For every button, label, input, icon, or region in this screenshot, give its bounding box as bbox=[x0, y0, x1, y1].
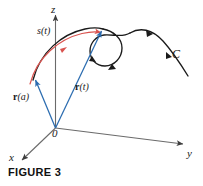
y-axis-label: y bbox=[187, 148, 192, 159]
vector-r-t-label-arg: (t) bbox=[79, 81, 88, 92]
origin-label: 0 bbox=[52, 128, 58, 139]
arc-length-indicator bbox=[30, 32, 101, 84]
y-axis bbox=[56, 128, 184, 144]
vector-r-a bbox=[36, 80, 56, 128]
x-axis-label: x bbox=[9, 152, 14, 163]
figure-caption: FIGURE 3 bbox=[8, 166, 61, 178]
arc-length-mid-arrow bbox=[60, 47, 67, 53]
vector-r-a-label: r(a) bbox=[13, 92, 29, 102]
figure-container: z y x 0 s(t) C r(a) r(t) FIGURE 3 bbox=[0, 0, 203, 186]
figure-graphic bbox=[0, 0, 203, 186]
curve-loop bbox=[90, 29, 130, 66]
vector-r-t bbox=[56, 31, 102, 128]
curve-label-c: C bbox=[172, 48, 180, 60]
arc-length-label: s(t) bbox=[37, 26, 50, 36]
z-axis-label: z bbox=[51, 4, 55, 15]
space-curve-c bbox=[33, 28, 188, 80]
vector-r-a-label-arg: (a) bbox=[17, 91, 29, 102]
x-axis bbox=[22, 128, 56, 160]
curve-direction-arrow-1 bbox=[89, 56, 96, 62]
arc-length-path bbox=[30, 32, 101, 84]
vector-r-t-label: r(t) bbox=[75, 82, 89, 92]
